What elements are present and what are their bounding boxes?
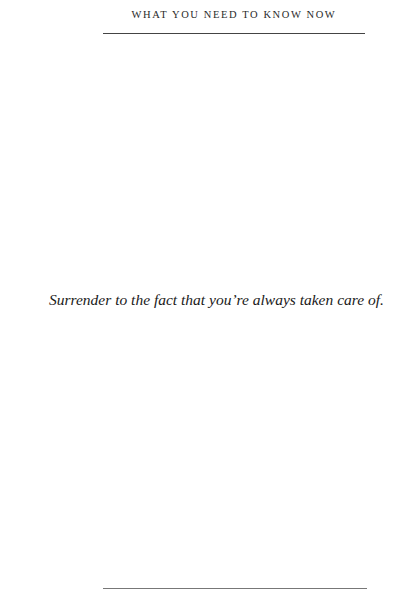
quote-text: Surrender to the fact that you’re always… xyxy=(49,291,384,309)
header-rule xyxy=(103,33,365,34)
footer-rule xyxy=(103,588,367,589)
running-head: WHAT YOU NEED TO KNOW NOW xyxy=(103,9,365,20)
